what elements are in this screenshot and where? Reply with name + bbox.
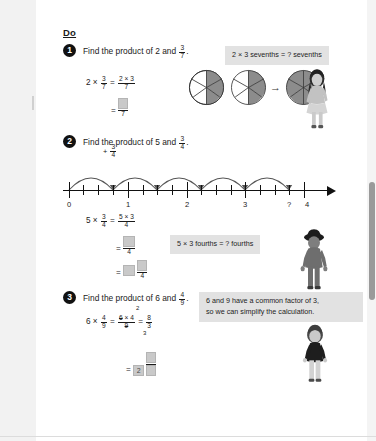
q1-answer-denominator: 7 (118, 110, 128, 118)
q3-mixed-numerator-blank[interactable] (146, 352, 156, 363)
number-line-label-1: 1 (126, 200, 130, 209)
q3-cancel-top: 2 (136, 305, 139, 311)
tick-m2 (98, 185, 99, 195)
section-heading: Do (63, 27, 76, 38)
q3-fraction-cancelled: 6 × 4 9 (118, 315, 135, 329)
callout-3-line-1: 6 and 9 have a common factor of 3, (206, 296, 356, 307)
q2-mixed-whole-blank[interactable] (123, 265, 135, 276)
tick-m8 (216, 185, 217, 195)
callout-3-line-2: so we can simplify the calculation. (206, 307, 356, 318)
q2-improper-denominator: 4 (123, 248, 135, 256)
q2-numerator-product: 5 × 3 (118, 214, 135, 221)
q3-numerator-product: 6 × 4 (118, 315, 135, 322)
number-line-arrowhead (327, 186, 336, 196)
tick-4 (304, 182, 305, 198)
q1-prompt-period: . (186, 46, 188, 56)
scrollbar-track[interactable] (367, 0, 376, 441)
q3-working-line-1: 6 × 4 9 = 6 × 4 9 = 8 3 (86, 315, 153, 329)
arrow-icon: → (270, 82, 281, 93)
number-line-jumps (63, 164, 333, 192)
tick-m3 (113, 185, 114, 195)
worksheet-page: Do 1 Find the product of 2 and 3 7 . 2 ×… (36, 0, 367, 441)
q3-prompt-fraction: 4 9 (179, 292, 185, 306)
q3-working-line-2: = 2 (126, 352, 156, 378)
character-boy-with-hat (294, 226, 334, 294)
scrollbar-thumb[interactable] (369, 182, 375, 300)
q2-improper-numerator-blank[interactable] (123, 236, 135, 247)
tick-m1 (83, 185, 84, 195)
tick-q (289, 185, 290, 195)
tick-m9 (231, 185, 232, 195)
q1-fraction-3-7: 3 7 (101, 76, 107, 90)
q1-working-line-2: = 7 (111, 98, 128, 118)
gutter-marker (32, 96, 34, 110)
callout-question-3: 6 and 9 have a common factor of 3, so we… (199, 292, 363, 322)
tick-1 (128, 182, 129, 198)
tick-m11 (275, 185, 276, 195)
q2-fraction-5x3-over-4: 5 × 3 4 (118, 214, 135, 228)
q1-answer-fraction: 7 (118, 98, 128, 118)
pie-chart-2 (230, 69, 267, 106)
q1-prompt-text: Find the product of 2 and (83, 46, 176, 56)
q3-cancel-bottom: 3 (143, 330, 146, 336)
tick-m10 (260, 185, 261, 195)
number-line-label-2: 2 (185, 200, 189, 209)
q2-prompt-text: Find the product of 5 and (83, 137, 176, 147)
callout-question-1: 2 × 3 sevenths = ? sevenths (225, 46, 329, 65)
q2-mixed-fraction: 4 (137, 260, 147, 280)
q3-prompt-text: Find the product of 6 and (83, 293, 176, 303)
q1-prompt-fraction: 3 7 (179, 45, 185, 59)
q1-numerator-product: 2 × 3 (118, 76, 135, 83)
callout-question-2: 5 × 3 fourths = ? fourths (170, 235, 260, 254)
q1-working-line-1: 2 × 3 7 = 2 × 3 7 (86, 76, 136, 90)
pie-chart-1 (188, 69, 225, 106)
q2-working-line-3: = 4 (116, 260, 147, 280)
left-gutter (0, 0, 36, 441)
number-line-jump-label: + 3 4 (103, 144, 117, 158)
tick-3 (245, 182, 246, 198)
tick-m6 (172, 185, 173, 195)
number-line-label-3: 3 (243, 200, 247, 209)
number-line-label-4: 4 (305, 200, 309, 209)
q2-mixed-numerator-blank[interactable] (137, 260, 147, 271)
number-line-label-0: 0 (67, 200, 71, 209)
tick-m5 (157, 185, 158, 195)
q3-fraction-4-9: 4 9 (101, 315, 107, 329)
q3-fraction-8-3: 8 3 (146, 315, 152, 329)
jump-fraction: 3 4 (110, 144, 116, 158)
question-prompt-2: Find the product of 5 and 3 4 . (83, 136, 188, 150)
question-number-3: 3 (63, 291, 76, 304)
q3-mixed-whole-blank[interactable]: 2 (133, 365, 144, 376)
character-girl-standing (298, 68, 336, 130)
q1-fraction-2x3-over-7: 2 × 3 7 (118, 76, 135, 90)
bottom-divider (0, 436, 376, 437)
question-number-2: 2 (63, 135, 76, 148)
q2-mixed-denominator: 4 (137, 272, 147, 280)
tick-0 (69, 182, 70, 198)
q3-mixed-fraction (146, 352, 156, 378)
q3-prompt-period: . (186, 293, 188, 303)
number-line-label-q: ? (287, 200, 291, 209)
q1-answer-numerator-blank[interactable] (118, 98, 128, 109)
question-number-1: 1 (63, 44, 76, 57)
tick-m7 (201, 185, 202, 195)
tick-2 (187, 182, 188, 198)
q2-prompt-fraction: 3 4 (179, 136, 185, 150)
q3-mixed-denominator-blank[interactable] (146, 365, 156, 376)
q2-working-line-2: = 4 (116, 236, 135, 256)
question-prompt-1: Find the product of 2 and 3 7 . (83, 45, 188, 59)
tick-m4 (143, 185, 144, 195)
q2-fraction-3-4: 3 4 (101, 214, 107, 228)
number-line-diagram: + 3 4 (63, 168, 346, 214)
q2-prompt-period: . (186, 137, 188, 147)
q2-improper-fraction: 4 (123, 236, 135, 256)
q2-working-line-1: 5 × 3 4 = 5 × 3 4 (86, 214, 136, 228)
character-child-dark-top (296, 322, 334, 386)
